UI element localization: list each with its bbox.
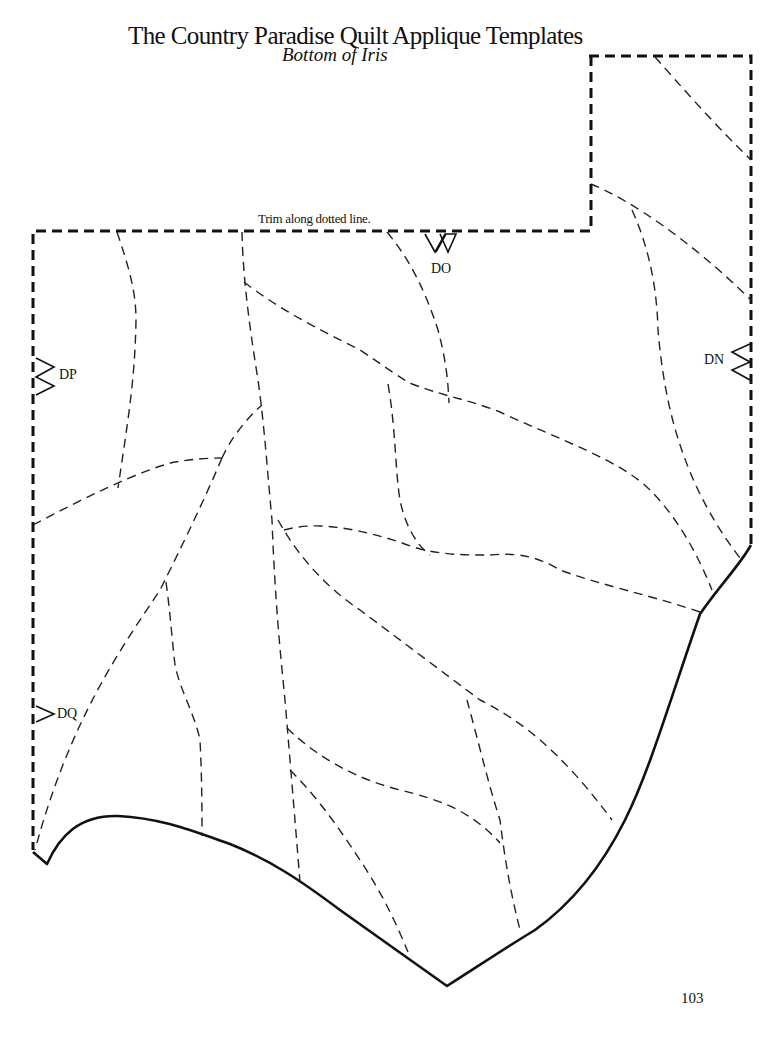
page-number: 103 — [681, 990, 704, 1007]
notch-dn-icon — [732, 344, 750, 380]
notch-label-dq: DQ — [57, 706, 77, 722]
notch-dp-icon — [36, 358, 54, 395]
trim-dotted-line — [33, 56, 751, 850]
notch-label-dp: DP — [59, 367, 77, 383]
notch-do-icon — [425, 234, 456, 252]
template-drawing — [0, 0, 766, 1050]
template-bottom-edge — [33, 545, 751, 986]
notch-dq-icon — [36, 706, 54, 722]
notch-label-do: DO — [431, 261, 451, 277]
notch-label-dn: DN — [704, 352, 724, 368]
